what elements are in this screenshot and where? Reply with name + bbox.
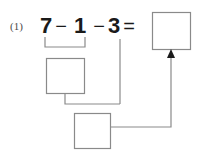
arrow-into-result-box-icon [167,49,175,58]
second-step-answer-box[interactable] [75,114,111,149]
connector-first-to-second [65,93,120,104]
first-step-answer-box[interactable] [47,59,85,94]
grouping-bracket-icon [45,37,85,47]
worksheet-problem-canvas: (1) 7−1−3= [0,0,203,155]
connector-second-to-result [110,57,171,127]
result-answer-box[interactable] [153,13,191,50]
